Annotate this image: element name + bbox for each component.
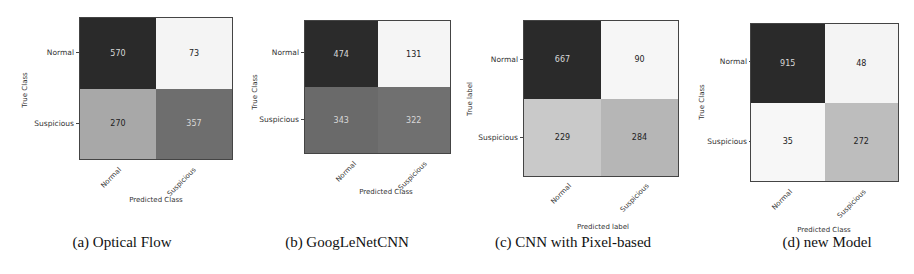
cell-fn: 35 — [751, 103, 825, 182]
y-axis-title: True Class — [21, 65, 29, 115]
row-label-normal: Normal — [720, 57, 752, 66]
cell-fp: 90 — [601, 21, 678, 99]
cell-tn: 474 — [305, 21, 378, 87]
y-axis-title: True label — [466, 74, 474, 124]
cell-fn: 343 — [305, 87, 378, 153]
panel-googlenet: True Class Normal Suspicious 474 131 343… — [230, 0, 455, 274]
row-label-suspicious: Suspicious — [478, 133, 523, 142]
cell-fp: 73 — [156, 18, 232, 89]
cell-fn: 270 — [80, 89, 156, 160]
x-axis-title: Predicted Class — [129, 196, 183, 204]
x-axis-title: Predicted label — [577, 223, 629, 231]
col-label-suspicious: Suspicious — [619, 182, 651, 214]
cell-tp: 272 — [825, 103, 899, 182]
caption: (d) new Model — [782, 234, 871, 251]
cell-tp: 284 — [601, 99, 678, 177]
row-label-normal: Normal — [491, 55, 523, 64]
panel-new-model: True Class Normal Suspicious 915 48 35 2… — [685, 0, 914, 274]
cell-tn: 570 — [80, 18, 156, 89]
x-axis-title: Predicted Class — [797, 226, 851, 234]
caption: (a) Optical Flow — [72, 234, 171, 251]
row-label-suspicious: Suspicious — [259, 115, 304, 124]
cell-tn: 667 — [524, 21, 601, 99]
y-axis-title: True Class — [251, 67, 259, 117]
row-label-normal: Normal — [272, 48, 304, 57]
row-label-normal: Normal — [47, 48, 79, 57]
col-label-suspicious: Suspicious — [836, 188, 868, 220]
col-label-normal: Normal — [99, 166, 123, 190]
confusion-matrix: 915 48 35 272 — [750, 23, 899, 182]
row-label-suspicious: Suspicious — [34, 119, 79, 128]
y-axis-title: True Class — [698, 77, 706, 127]
panel-cnn-pixel: True label Normal Suspicious 667 90 229 … — [455, 0, 685, 274]
row-label-suspicious: Suspicious — [707, 137, 752, 146]
confusion-matrix: 667 90 229 284 — [523, 20, 679, 177]
panel-optical-flow: True Class Normal Suspicious 570 73 270 … — [0, 0, 230, 274]
x-axis-title: Predicted Class — [359, 188, 413, 196]
col-label-normal: Normal — [549, 182, 573, 206]
cell-fp: 131 — [378, 21, 451, 87]
caption: (c) CNN with Pixel-based — [495, 234, 651, 251]
confusion-matrix: 570 73 270 357 — [79, 17, 233, 160]
cell-tn: 915 — [751, 24, 825, 103]
col-label-normal: Normal — [334, 160, 358, 184]
col-label-normal: Normal — [770, 188, 794, 212]
cell-tp: 322 — [378, 87, 451, 153]
cell-fn: 229 — [524, 99, 601, 177]
cell-tp: 357 — [156, 89, 232, 160]
caption: (b) GoogLeNetCNN — [285, 234, 409, 251]
confusion-matrix: 474 131 343 322 — [304, 20, 451, 154]
col-label-suspicious: Suspicious — [166, 166, 198, 198]
cell-fp: 48 — [825, 24, 899, 103]
